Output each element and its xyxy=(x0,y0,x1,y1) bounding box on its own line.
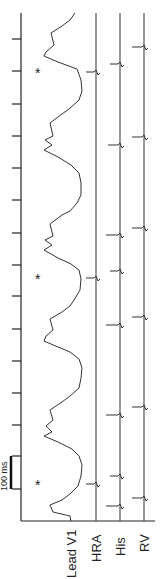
his-deflections xyxy=(106,62,124,509)
electrogram-plot xyxy=(0,0,161,579)
scale-bar-label: 100 ms xyxy=(0,461,9,491)
label-hra: HRA xyxy=(89,535,104,562)
marker-asterisk-1: * xyxy=(35,66,40,80)
label-his: His xyxy=(113,537,128,556)
lead-v1-trace xyxy=(44,13,82,521)
label-rv: RV xyxy=(137,534,152,552)
rv-deflections xyxy=(132,45,148,501)
marker-asterisk-3: * xyxy=(35,478,40,492)
marker-asterisk-2: * xyxy=(35,272,40,286)
time-ticks xyxy=(12,39,21,489)
hra-deflections xyxy=(86,70,100,487)
label-lead-v1: Lead V1 xyxy=(64,530,79,578)
